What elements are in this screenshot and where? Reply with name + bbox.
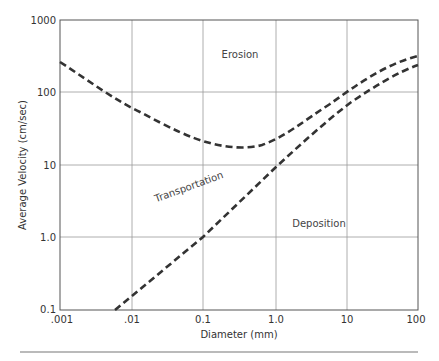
grid	[60, 20, 418, 310]
y-tick-10: 10	[43, 160, 56, 171]
y-tick-1000: 1000	[31, 15, 56, 26]
region-erosion: Erosion	[222, 49, 259, 60]
x-tick-0.01: .01	[124, 314, 140, 325]
deposition-curve	[115, 65, 418, 310]
x-tick-0.1: 0.1	[195, 314, 211, 325]
erosion-curve	[60, 56, 418, 147]
region-transportation: Transportation	[152, 169, 225, 204]
y-axis-label: Average Velocity (cm/sec)	[17, 100, 28, 230]
x-tick-10: 10	[341, 314, 354, 325]
x-tick-0.001: .001	[51, 314, 73, 325]
y-tick-1: 1.0	[40, 232, 56, 243]
hjulstrom-chart: 1000 100 10 1.0 0.1 .001 .01 0.1 1.0 10 …	[0, 0, 439, 361]
x-tick-1: 1.0	[268, 314, 284, 325]
x-tick-100: 100	[406, 314, 425, 325]
x-axis-ticks: .001 .01 0.1 1.0 10 100	[51, 314, 426, 325]
region-deposition: Deposition	[292, 218, 345, 229]
y-axis-ticks: 1000 100 10 1.0 0.1	[31, 15, 56, 315]
x-axis-label: Diameter (mm)	[200, 329, 277, 340]
y-tick-100: 100	[37, 87, 56, 98]
